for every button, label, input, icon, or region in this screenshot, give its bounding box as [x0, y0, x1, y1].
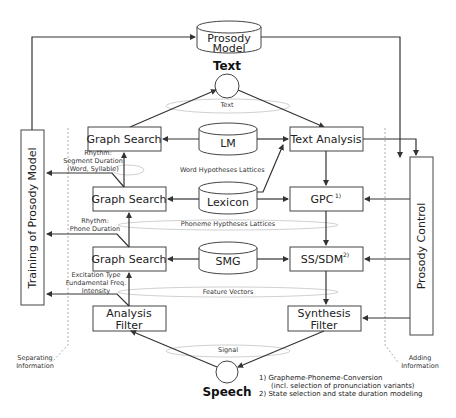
rhythm-segment-1: Rhythm: — [84, 149, 112, 157]
gpc-footnote-marker: 1) — [335, 192, 341, 199]
rhythm-phone-1: Rhythm: — [81, 217, 109, 225]
gpc-label: GPC — [311, 193, 334, 206]
speech-io-node — [216, 361, 238, 383]
adding-2: Information — [401, 362, 439, 370]
adding-1: Adding — [409, 354, 432, 362]
level-phoneme-label: Phoneme Hyptheses Lattices — [181, 220, 276, 228]
text-io-node — [215, 74, 239, 98]
rhythm-segment-3: (Word, Syllable) — [67, 165, 118, 173]
synthesis-filter-label-2: Filter — [310, 319, 338, 332]
ss-sdm-footnote-marker: 2) — [343, 251, 349, 258]
footnote-1b: (incl. selection of pronunciation varian… — [271, 382, 415, 390]
excitation-1: Excitation Type — [71, 271, 120, 279]
rhythm-segment-2: Segment Duration — [63, 157, 123, 165]
graph-search-1-label: Graph Search — [86, 133, 161, 146]
speech-io-label: Speech — [202, 385, 251, 399]
graph-search-3-label: Graph Search — [91, 253, 166, 266]
graph-search-2-label: Graph Search — [91, 193, 166, 206]
excitation-3: Intensity — [82, 287, 110, 295]
prosody-control-label: Prosody Control — [415, 203, 428, 290]
training-prosody-label: Training of Prosody Model — [26, 148, 39, 290]
level-signal-label: Signal — [218, 346, 238, 354]
diagram-canvas: Prosody Model Text Text Graph Search LM … — [0, 0, 456, 418]
lexicon-label: Lexicon — [207, 196, 249, 209]
separating-2: Information — [16, 362, 54, 370]
rhythm-phone-2: Phone Duration — [70, 225, 120, 233]
ss-sdm-label: SS/SDM — [301, 253, 344, 266]
excitation-2: Fundamental Freq. — [66, 279, 127, 287]
separating-1: Separating — [17, 354, 53, 362]
text-io-label: Text — [213, 59, 241, 73]
separator-right — [385, 128, 398, 362]
text-analysis-label: Text Analysis — [289, 133, 361, 146]
level-feature-label: Feature Vectors — [203, 288, 254, 296]
smg-label: SMG — [216, 255, 241, 268]
footnote-2: 2) State selection and state duration mo… — [259, 390, 423, 398]
level-text-label: Text — [219, 101, 234, 109]
analysis-filter-label-2: Filter — [115, 319, 143, 332]
prosody-model-label-2: Model — [212, 42, 245, 55]
level-word-label: Word Hypotheses Lattices — [180, 166, 265, 174]
lm-label: LM — [220, 137, 236, 150]
footnote-1a: 1) Grapheme-Phoneme-Conversion — [259, 374, 382, 382]
